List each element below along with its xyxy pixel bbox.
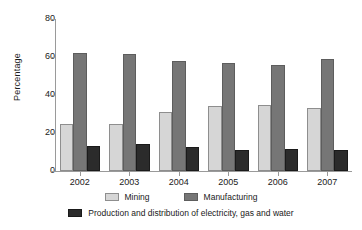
- bar: [307, 108, 321, 171]
- bar: [123, 54, 137, 171]
- y-tick-label: 60: [20, 52, 55, 61]
- x-tick-mark: [228, 172, 229, 176]
- legend-item: Mining: [105, 193, 150, 202]
- y-tick-label: 20: [20, 128, 55, 137]
- x-tick-label: 2006: [254, 178, 302, 187]
- y-tick-label: 40: [20, 90, 55, 99]
- y-axis-title: Percentage: [12, 27, 22, 127]
- plot-area: Percentage 806040200 2002200320042005200…: [0, 0, 362, 195]
- legend-label: Mining: [125, 193, 150, 202]
- legend-item: Production and distribution of electrici…: [68, 209, 293, 218]
- x-tick-label: 2005: [204, 178, 252, 187]
- bar: [235, 150, 249, 171]
- bar: [73, 53, 87, 171]
- x-tick-label: 2007: [303, 178, 351, 187]
- chart-legend-row-2: Production and distribution of electrici…: [0, 209, 362, 218]
- y-tick-label: 80: [20, 14, 55, 23]
- legend-label: Manufacturing: [204, 193, 258, 202]
- legend-swatch-icon: [105, 193, 119, 201]
- y-tick-label: 0: [20, 166, 55, 175]
- bar: [109, 124, 123, 171]
- bar: [258, 105, 272, 171]
- bar: [60, 124, 74, 171]
- bars-layer: [55, 19, 352, 171]
- bar-chart: Percentage 806040200 2002200320042005200…: [0, 0, 362, 230]
- legend-label: Production and distribution of electrici…: [88, 209, 293, 218]
- x-tick-mark: [278, 172, 279, 176]
- x-tick-mark: [129, 172, 130, 176]
- bar: [87, 146, 101, 171]
- legend-item: Manufacturing: [184, 193, 258, 202]
- bar: [136, 144, 150, 171]
- x-tick-mark: [327, 172, 328, 176]
- bar: [271, 65, 285, 171]
- bar: [222, 63, 236, 171]
- bar: [172, 61, 186, 171]
- x-axis-line: [55, 171, 352, 172]
- x-tick-mark: [179, 172, 180, 176]
- x-tick-mark: [80, 172, 81, 176]
- legend-swatch-icon: [184, 193, 198, 201]
- y-tick-mark: [51, 171, 55, 172]
- x-tick-label: 2004: [155, 178, 203, 187]
- bar: [159, 112, 173, 171]
- bar: [208, 106, 222, 171]
- bar: [334, 150, 348, 171]
- bar: [321, 59, 335, 171]
- legend-swatch-icon: [68, 209, 82, 217]
- bar: [186, 147, 200, 172]
- x-tick-label: 2002: [56, 178, 104, 187]
- x-tick-label: 2003: [105, 178, 153, 187]
- bar: [285, 149, 299, 171]
- chart-legend-row-1: MiningManufacturing: [0, 193, 362, 202]
